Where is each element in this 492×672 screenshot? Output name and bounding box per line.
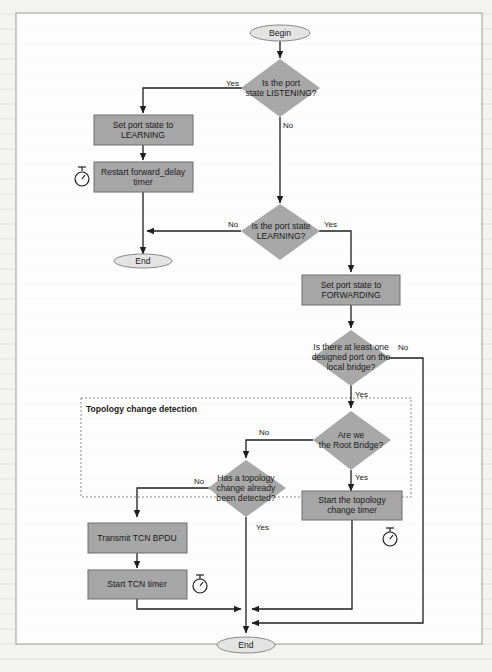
edge-label-learning-no: No: [228, 220, 239, 229]
node-start-topology-change-timer: Start the topology change timer: [302, 491, 402, 520]
edge-label-listening-yes: Yes: [226, 79, 239, 88]
svg-text:Is there at least one: Is there at least one: [313, 342, 389, 352]
svg-text:been detected?: been detected?: [216, 493, 275, 503]
svg-text:local bridge?: local bridge?: [327, 362, 376, 372]
node-set-forwarding: Set port state to FORWARDING: [302, 275, 400, 305]
svg-text:Has a topology: Has a topology: [217, 473, 275, 483]
node-end-bottom: End: [217, 637, 275, 653]
svg-text:designed port on the: designed port on the: [312, 352, 391, 362]
svg-text:Set port state to: Set port state to: [321, 280, 382, 290]
svg-text:Start the topology: Start the topology: [318, 495, 386, 505]
edge-label-learning-yes: Yes: [324, 220, 337, 229]
svg-text:timer: timer: [133, 177, 152, 187]
svg-text:Is the port: Is the port: [262, 78, 301, 88]
svg-text:change timer: change timer: [327, 505, 377, 515]
svg-text:state LISTENING?: state LISTENING?: [245, 88, 316, 98]
edge-label-root-yes: Yes: [355, 473, 368, 482]
svg-text:the Root Bridge?: the Root Bridge?: [319, 440, 384, 450]
node-transmit-tcn-bpdu: Transmit TCN BPDU: [88, 523, 187, 553]
svg-text:Start TCN timer: Start TCN timer: [107, 579, 167, 589]
node-begin: Begin: [250, 25, 310, 41]
figure-frame: [16, 13, 482, 644]
edge-label-designated-no: No: [398, 343, 409, 352]
svg-text:End: End: [135, 256, 151, 266]
node-restart-forward-delay-timer: Restart forward_delay timer: [94, 162, 193, 192]
svg-text:FORWARDING: FORWARDING: [321, 290, 381, 300]
edge-label-designated-yes: Yes: [355, 390, 368, 399]
svg-text:LEARNING: LEARNING: [121, 130, 165, 140]
svg-text:Are we: Are we: [338, 430, 365, 440]
group-title: Topology change detection: [86, 404, 197, 414]
svg-text:LEARNING?: LEARNING?: [257, 231, 306, 241]
edge-label-tc-no: No: [194, 477, 205, 486]
svg-text:Set port state to: Set port state to: [113, 120, 174, 130]
svg-text:Begin: Begin: [269, 28, 291, 38]
node-end-top: End: [114, 254, 172, 268]
svg-text:change already: change already: [217, 483, 276, 493]
edge-label-tc-yes: Yes: [256, 523, 269, 532]
svg-text:End: End: [238, 640, 254, 650]
svg-text:Restart forward_delay: Restart forward_delay: [101, 167, 186, 177]
flowchart: Topology change detection: [0, 0, 492, 672]
svg-text:Transmit TCN BPDU: Transmit TCN BPDU: [97, 533, 176, 543]
node-start-tcn-timer: Start TCN timer: [88, 570, 187, 599]
node-set-learning: Set port state to LEARNING: [94, 115, 193, 145]
edge-label-listening-no: No: [283, 121, 294, 130]
edge-label-root-no: No: [259, 428, 270, 437]
svg-text:Is the port state: Is the port state: [251, 221, 310, 231]
